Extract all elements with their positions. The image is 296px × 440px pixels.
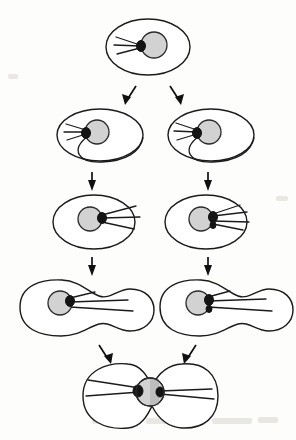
arrow-r4-right (182, 345, 196, 364)
arrow-top-left (122, 86, 136, 105)
cell-r2-left (57, 109, 143, 162)
cell-r4-right (160, 280, 293, 336)
cell-r3-right (165, 195, 249, 249)
kinetoplast (193, 128, 202, 139)
figure-canvas (0, 0, 296, 440)
flagellate-division-diagram (0, 0, 296, 440)
cell-r2-right (168, 109, 254, 162)
kinetoplast-secondary (206, 306, 212, 313)
kinetoplast-left (133, 385, 143, 397)
kinetoplast (98, 213, 107, 224)
kinetoplast (137, 41, 146, 52)
arrow-r2-right (204, 172, 212, 191)
arrow-r2-left (88, 172, 96, 191)
arrow-top-right (170, 86, 184, 105)
cell-r3-left (53, 195, 140, 249)
kinetoplast (82, 128, 91, 139)
kinetoplast (205, 295, 214, 306)
kinetoplast-right (156, 387, 164, 397)
arrow-r3-left (88, 257, 96, 276)
arrow-r4-left (99, 345, 113, 364)
cell-top (106, 19, 190, 75)
arrow-r3-right (204, 257, 212, 276)
kinetoplast (66, 296, 75, 307)
kinetoplast (209, 212, 218, 223)
cell-r4-left (20, 280, 154, 336)
kinetoplast-secondary (210, 222, 216, 229)
